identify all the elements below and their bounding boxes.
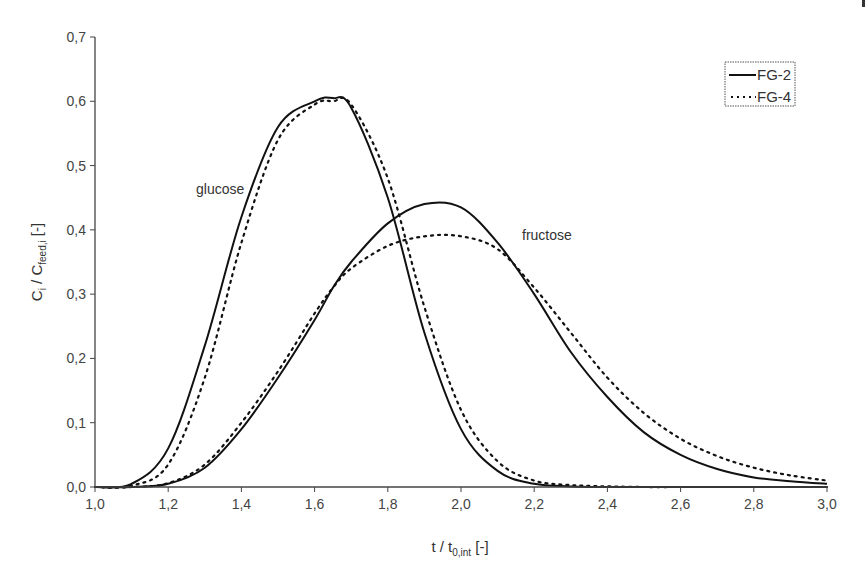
y-axis-label: Ci / Cfeed,i [-] xyxy=(28,223,48,301)
annotation-fructose: fructose xyxy=(522,227,572,243)
y-tick-label: 0,4 xyxy=(67,222,87,238)
chart: 0,00,10,20,30,40,50,60,7 1,01,21,41,61,8… xyxy=(0,0,867,584)
x-tick-label: 2,6 xyxy=(671,496,691,512)
y-tick-label: 0,2 xyxy=(67,350,87,366)
annotation-glucose: glucose xyxy=(196,181,244,197)
x-tick-label: 1,4 xyxy=(232,496,252,512)
plot-lines xyxy=(95,97,827,488)
y-tick-label: 0,7 xyxy=(67,29,87,45)
y-tick-label: 0,6 xyxy=(67,93,87,109)
series-fg-4-fructose xyxy=(95,235,827,487)
x-tick-label: 2,4 xyxy=(598,496,618,512)
legend-label-fg4: FG-4 xyxy=(757,88,791,105)
x-ticks: 1,01,21,41,61,82,02,22,42,62,83,0 xyxy=(85,487,837,512)
x-tick-label: 1,6 xyxy=(305,496,325,512)
y-tick-label: 0,3 xyxy=(67,286,87,302)
y-tick-label: 0,1 xyxy=(67,415,87,431)
series-fg-2-glucose xyxy=(95,97,827,488)
x-tick-label: 1,0 xyxy=(85,496,105,512)
page-edge-mark xyxy=(862,0,865,7)
x-tick-label: 2,8 xyxy=(744,496,764,512)
y-tick-label: 0,0 xyxy=(67,479,87,495)
axes: 0,00,10,20,30,40,50,60,7 1,01,21,41,61,8… xyxy=(67,29,837,512)
y-tick-label: 0,5 xyxy=(67,158,87,174)
legend: FG-2 FG-4 xyxy=(725,62,795,106)
x-tick-label: 2,0 xyxy=(451,496,471,512)
x-tick-label: 1,2 xyxy=(158,496,178,512)
y-ticks: 0,00,10,20,30,40,50,60,7 xyxy=(67,29,95,495)
legend-label-fg2: FG-2 xyxy=(757,66,791,83)
x-tick-label: 3,0 xyxy=(817,496,837,512)
x-axis-label: t / t0,int [-] xyxy=(431,538,488,558)
x-tick-label: 2,2 xyxy=(524,496,544,512)
x-tick-label: 1,8 xyxy=(378,496,398,512)
